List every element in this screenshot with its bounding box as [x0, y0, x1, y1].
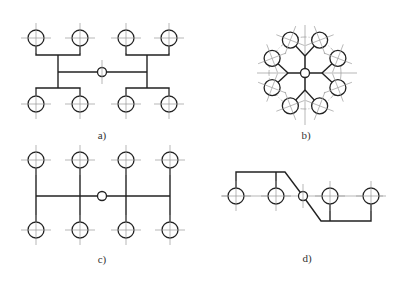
outlet — [261, 181, 291, 211]
panel-b — [257, 25, 357, 125]
outlet — [154, 23, 184, 53]
panel-a — [21, 23, 184, 119]
outlet — [221, 181, 251, 211]
branch-top-left — [36, 46, 80, 55]
hub-circle — [98, 192, 107, 201]
outlet — [111, 215, 141, 245]
branch-bottom-left — [36, 88, 80, 96]
label-d: d) — [302, 252, 312, 265]
outlet — [154, 89, 184, 119]
outlet — [356, 181, 386, 211]
outlet — [315, 181, 345, 211]
panel-c — [21, 145, 185, 245]
hub — [299, 184, 308, 208]
label-b: b) — [301, 129, 311, 142]
outlet — [155, 145, 185, 175]
label-c: c) — [98, 253, 107, 266]
hub — [98, 192, 107, 201]
outlet — [111, 89, 141, 119]
outlet — [65, 145, 95, 175]
outlet — [21, 23, 51, 53]
branch-bottom-right — [126, 88, 169, 96]
pipe-layout-figure: a) b) c) d) — [0, 0, 400, 284]
hub — [98, 60, 107, 84]
outlet — [155, 215, 185, 245]
outlet — [65, 23, 95, 53]
outlet — [65, 215, 95, 245]
outlet — [21, 89, 51, 119]
panel-d — [221, 172, 386, 221]
outlet — [21, 145, 51, 175]
label-a: a) — [98, 129, 107, 142]
branch-top-right — [126, 46, 169, 55]
hub-circle — [301, 69, 310, 78]
outlet — [111, 23, 141, 53]
outlet — [111, 145, 141, 175]
outlet — [65, 89, 95, 119]
outlet — [21, 215, 51, 245]
hub — [301, 69, 310, 78]
